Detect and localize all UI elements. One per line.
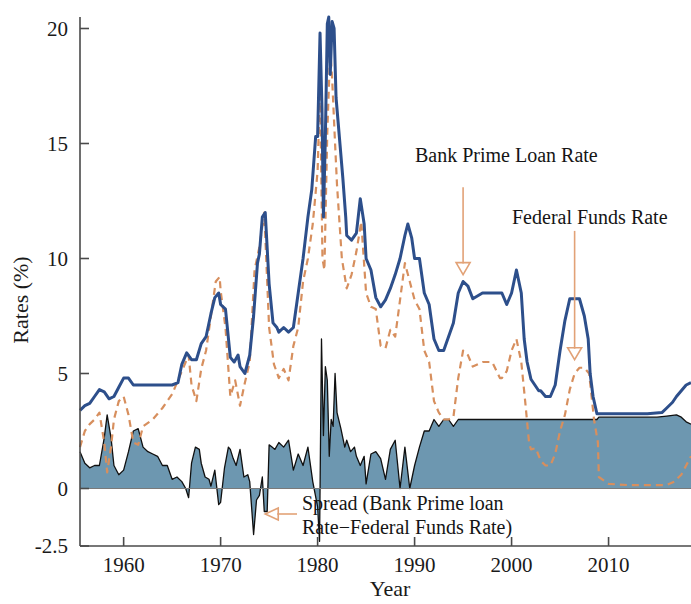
y-tick-label: 5 xyxy=(58,362,69,386)
x-axis-title: Year xyxy=(370,576,411,601)
x-tick-label: 1990 xyxy=(394,553,436,577)
chart-figure: -2.505101520 196019701980199020002010 Ra… xyxy=(0,0,691,604)
spread-annotation-label-line2: Rate−Federal Funds Rate) xyxy=(302,516,512,539)
y-tick-label: 20 xyxy=(47,17,68,41)
y-tick-label: 10 xyxy=(47,247,68,271)
prime-annotation-label: Bank Prime Loan Rate xyxy=(415,144,598,166)
x-tick-label: 1960 xyxy=(103,553,145,577)
interest-rates-chart: -2.505101520 196019701980199020002010 Ra… xyxy=(0,0,691,604)
x-tick-label: 1970 xyxy=(200,553,242,577)
x-tick-label: 1980 xyxy=(297,553,339,577)
x-tick-label: 2000 xyxy=(491,553,533,577)
spread-annotation-label-line1: Spread (Bank Prime loan xyxy=(302,492,504,515)
fedfunds-annotation-label: Federal Funds Rate xyxy=(512,206,668,228)
x-tick-label: 2010 xyxy=(588,553,630,577)
y-tick-label: -2.5 xyxy=(35,534,68,558)
y-axis-title: Rates (%) xyxy=(8,256,33,343)
y-tick-label: 15 xyxy=(47,132,68,156)
y-tick-label: 0 xyxy=(58,477,69,501)
